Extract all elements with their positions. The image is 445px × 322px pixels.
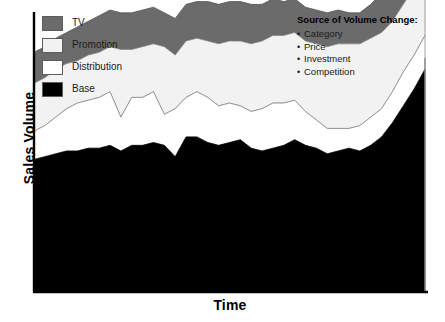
chart-figure: Sales Volume Time TV Promotion Distribut… xyxy=(0,0,445,322)
bullet-icon: • xyxy=(297,28,304,41)
legend-swatch-base xyxy=(42,82,63,97)
legend-label-distribution: Distribution xyxy=(72,62,122,72)
legend-item-tv[interactable]: TV xyxy=(42,13,122,33)
annotation-block: Source of Volume Change: • Category • Pr… xyxy=(297,14,437,78)
annotation-bullet-label: Investment xyxy=(304,53,350,66)
annotation-bullet-price: • Price xyxy=(297,41,437,54)
bullet-icon: • xyxy=(297,53,304,66)
bullet-icon: • xyxy=(297,41,304,54)
annotation-title: Source of Volume Change: xyxy=(297,14,437,26)
legend-item-base[interactable]: Base xyxy=(42,79,122,99)
legend-swatch-promotion xyxy=(42,38,63,53)
annotation-bullet-competition: • Competition xyxy=(297,66,437,79)
legend-label-promotion: Promotion xyxy=(72,40,118,50)
annotation-bullet-label: Price xyxy=(304,41,326,54)
legend-label-base: Base xyxy=(72,84,95,94)
bullet-icon: • xyxy=(297,66,304,79)
legend-item-distribution[interactable]: Distribution xyxy=(42,57,122,77)
annotation-bullet-label: Category xyxy=(304,28,343,41)
annotation-bullet-label: Competition xyxy=(304,66,355,79)
legend-swatch-tv xyxy=(42,16,63,31)
legend-swatch-distribution xyxy=(42,60,63,75)
chart-legend: TV Promotion Distribution Base xyxy=(42,13,122,101)
annotation-bullet-category: • Category xyxy=(297,28,437,41)
y-axis-title: Sales Volume xyxy=(21,73,37,203)
legend-label-tv: TV xyxy=(72,18,85,28)
legend-item-promotion[interactable]: Promotion xyxy=(42,35,122,55)
x-axis-title: Time xyxy=(34,297,426,313)
annotation-bullet-investment: • Investment xyxy=(297,53,437,66)
